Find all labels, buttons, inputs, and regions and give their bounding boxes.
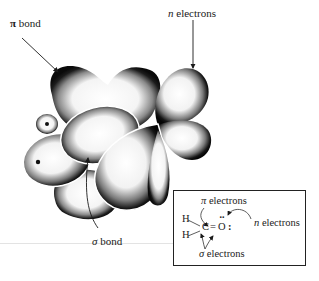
oxygen-lone-pair-top: ·· — [219, 212, 224, 223]
oxygen-lone-pair-right: : — [228, 221, 232, 232]
scan-line — [0, 243, 173, 244]
n-electrons-text: electrons — [174, 7, 216, 19]
pi-bond-label: π bond — [10, 17, 41, 29]
pi-bond-arrow — [22, 38, 58, 72]
inset-n-electrons: n electrons — [254, 217, 300, 228]
hydrogen-top: H — [182, 213, 190, 224]
sigma-bond-text: bond — [97, 235, 122, 247]
inset-sigma-text: electrons — [204, 248, 245, 259]
hydrogen-bottom: H — [182, 229, 190, 240]
carbon-atom: C — [202, 221, 209, 232]
formaldehyde-inset: π electrons H H C = O ·· : n electrons σ… — [173, 190, 306, 266]
oxygen-n-lobe-upper — [155, 68, 208, 125]
inset-pi-electrons: π electrons — [201, 195, 247, 206]
inset-pi-text: electrons — [206, 195, 247, 206]
n-electrons-label: n electrons — [168, 7, 216, 19]
sigma-bond-label: σ bond — [92, 235, 122, 247]
double-bond: = — [210, 221, 216, 232]
pi-bond-text: bond — [16, 17, 41, 29]
inset-n-text: electrons — [259, 217, 300, 228]
inset-sigma-electrons: σ electrons — [199, 248, 245, 259]
